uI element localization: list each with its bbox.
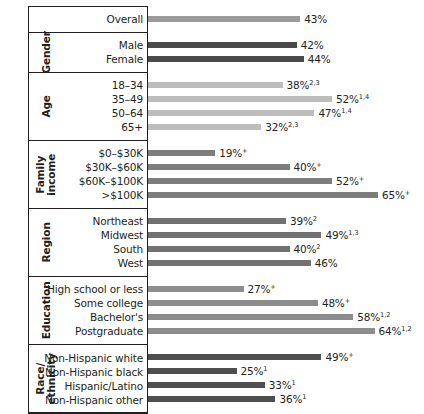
bar-value-text: 43% bbox=[304, 13, 327, 25]
bar-row: 40%+ bbox=[148, 160, 322, 174]
category-label: High school or less bbox=[29, 283, 143, 297]
bar-row: 40%2 bbox=[148, 242, 321, 256]
category-group: EducationHigh school or lessSome college… bbox=[29, 277, 147, 345]
bar-value-label: 40%2 bbox=[294, 244, 321, 255]
bar bbox=[148, 150, 215, 156]
bar bbox=[148, 178, 332, 184]
bar bbox=[148, 124, 261, 130]
category-label: Male bbox=[29, 39, 143, 53]
bar-value-superscript: + bbox=[316, 160, 322, 168]
bar bbox=[148, 16, 300, 22]
bar-row: 65%+ bbox=[148, 188, 410, 202]
bar-row: 47%1,4 bbox=[148, 106, 352, 120]
group-row-labels: $0–$30K$30K–$60K$60K–$100K>$100K bbox=[29, 147, 147, 203]
bar-value-text: 19% bbox=[219, 147, 242, 159]
bar-value-superscript: 2,3 bbox=[309, 78, 320, 86]
bar-value-label: 27%+ bbox=[248, 284, 276, 295]
category-label: $60K–$100K bbox=[29, 175, 143, 189]
bar-value-text: 46% bbox=[315, 257, 338, 269]
bar-value-label: 46% bbox=[315, 258, 338, 269]
category-label: West bbox=[29, 257, 143, 271]
category-group: RegionNortheastMidwestSouthWest bbox=[29, 209, 147, 277]
category-group: Race/ethnicityNon-Hispanic whiteNon-Hisp… bbox=[29, 345, 147, 413]
bar-value-text: 49% bbox=[325, 229, 348, 241]
group-row-labels: Overall bbox=[29, 13, 147, 27]
bar-value-text: 44% bbox=[308, 53, 331, 65]
bar bbox=[148, 96, 332, 102]
bar-value-superscript: + bbox=[270, 282, 276, 290]
bar-row: 44% bbox=[148, 52, 331, 66]
bar bbox=[148, 300, 318, 306]
category-group: Age18–3435–4950–6465+ bbox=[29, 73, 147, 141]
bar-value-label: 39%2 bbox=[290, 216, 317, 227]
bar bbox=[148, 192, 378, 198]
bar-row: 19%+ bbox=[148, 146, 248, 160]
category-label: South bbox=[29, 243, 143, 257]
bar-value-superscript: + bbox=[345, 296, 351, 304]
bar-row: 36%1 bbox=[148, 392, 306, 406]
bar-row: 49%+ bbox=[148, 350, 354, 364]
bar-value-label: 40%+ bbox=[294, 162, 322, 173]
bar-value-label: 48%+ bbox=[322, 298, 350, 309]
bar-value-label: 49%+ bbox=[325, 352, 353, 363]
bar-value-superscript: 2,3 bbox=[288, 120, 299, 128]
bar-value-superscript: 1 bbox=[302, 392, 306, 400]
bar-value-text: 58% bbox=[357, 311, 380, 323]
bar-row: 25%1 bbox=[148, 364, 267, 378]
category-label: Bachelor's bbox=[29, 311, 143, 325]
bar-value-label: 33%1 bbox=[269, 380, 296, 391]
category-label: Non-Hispanic other bbox=[29, 393, 143, 407]
bar bbox=[148, 82, 283, 88]
bar-value-superscript: + bbox=[242, 146, 248, 154]
bar-value-label: 32%2,3 bbox=[265, 122, 298, 133]
bar-value-superscript: 1,2 bbox=[380, 310, 391, 318]
group-row-labels: Non-Hispanic whiteNon-Hispanic blackHisp… bbox=[29, 351, 147, 407]
bar-row: 52%1,4 bbox=[148, 92, 369, 106]
category-label-panel: OverallGenderMaleFemaleAge18–3435–4950–6… bbox=[28, 6, 148, 414]
bar-value-text: 65% bbox=[382, 189, 405, 201]
bar-value-text: 42% bbox=[301, 39, 324, 51]
bar-row: 48%+ bbox=[148, 296, 350, 310]
bar-value-superscript: 1 bbox=[263, 364, 267, 372]
bar bbox=[148, 110, 314, 116]
bar-value-text: 64% bbox=[379, 325, 402, 337]
bottom-rule bbox=[28, 412, 148, 413]
bar bbox=[148, 260, 311, 266]
bar-value-label: 64%1,2 bbox=[379, 326, 412, 337]
bar-row: 39%2 bbox=[148, 214, 317, 228]
bar-value-text: 32% bbox=[265, 121, 288, 133]
bar bbox=[148, 396, 275, 402]
bar bbox=[148, 218, 286, 224]
bar-value-label: 52%1,4 bbox=[336, 94, 369, 105]
bar bbox=[148, 382, 265, 388]
bar-row: 52%+ bbox=[148, 174, 364, 188]
group-row-labels: NortheastMidwestSouthWest bbox=[29, 215, 147, 271]
bar-row: 27%+ bbox=[148, 282, 276, 296]
bar-row: 38%2,3 bbox=[148, 78, 320, 92]
bar-value-label: 19%+ bbox=[219, 148, 247, 159]
category-label: 18–34 bbox=[29, 79, 143, 93]
bar-value-text: 48% bbox=[322, 297, 345, 309]
category-label: Female bbox=[29, 53, 143, 67]
bar bbox=[148, 354, 321, 360]
bar-value-label: 44% bbox=[308, 54, 331, 65]
bar-value-text: 52% bbox=[336, 93, 359, 105]
category-label: Northeast bbox=[29, 215, 143, 229]
bar-row: 33%1 bbox=[148, 378, 296, 392]
bar-value-label: 42% bbox=[301, 40, 324, 51]
bar bbox=[148, 328, 375, 334]
bar-value-superscript: + bbox=[348, 350, 354, 358]
bar-value-label: 47%1,4 bbox=[318, 108, 351, 119]
bar-value-text: 52% bbox=[336, 175, 359, 187]
bar-value-text: 47% bbox=[318, 107, 341, 119]
bar-row: 46% bbox=[148, 256, 338, 270]
category-label: Midwest bbox=[29, 229, 143, 243]
category-group: Overall bbox=[29, 7, 147, 33]
bar-value-label: 25%1 bbox=[241, 366, 268, 377]
category-label: Non-Hispanic white bbox=[29, 351, 143, 365]
category-group: Familyincome$0–$30K$30K–$60K$60K–$100K>$… bbox=[29, 141, 147, 209]
bar-value-label: 43% bbox=[304, 14, 327, 25]
category-label: Hispanic/Latino bbox=[29, 379, 143, 393]
bar-value-superscript: 2 bbox=[313, 214, 317, 222]
